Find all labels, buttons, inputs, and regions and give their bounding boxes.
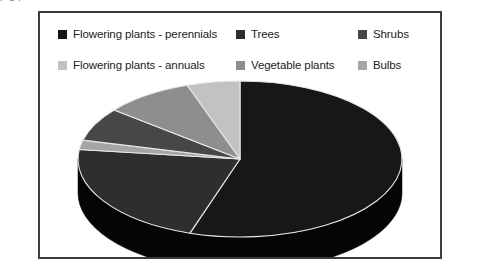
- legend-swatch-annuals: [58, 61, 67, 70]
- caption-bleed: p g p: [0, 0, 482, 10]
- legend-swatch-perennials: [58, 30, 67, 39]
- caption-bleed-text: p g p: [0, 0, 24, 1]
- legend-label-annuals: Flowering plants - annuals: [73, 59, 205, 71]
- legend-item-perennials[interactable]: Flowering plants - perennials: [58, 23, 236, 45]
- legend-label-trees: Trees: [251, 28, 279, 40]
- legend-swatch-bulbs: [358, 61, 367, 70]
- legend-item-trees[interactable]: Trees: [236, 23, 358, 45]
- legend-row: Flowering plants - perennials Trees Shru…: [58, 23, 430, 45]
- legend-item-shrubs[interactable]: Shrubs: [358, 23, 409, 45]
- legend-label-perennials: Flowering plants - perennials: [73, 28, 217, 40]
- legend-swatch-vegetable: [236, 61, 245, 70]
- chart-legend: Flowering plants - perennials Trees Shru…: [58, 23, 430, 76]
- pie-chart: [40, 71, 440, 257]
- legend-swatch-shrubs: [358, 30, 367, 39]
- legend-label-bulbs: Bulbs: [373, 59, 401, 71]
- pie-top-face: [78, 81, 402, 237]
- legend-label-shrubs: Shrubs: [373, 28, 409, 40]
- legend-swatch-trees: [236, 30, 245, 39]
- legend-label-vegetable: Vegetable plants: [251, 59, 334, 71]
- chart-frame: Flowering plants - perennials Trees Shru…: [38, 11, 442, 259]
- pie-chart-svg: [40, 71, 440, 257]
